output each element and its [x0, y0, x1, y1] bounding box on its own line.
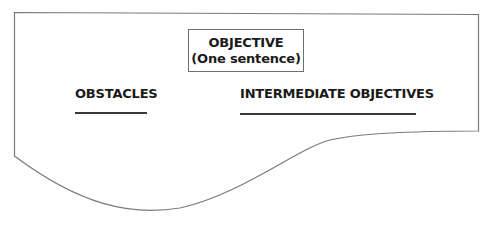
objective-subtitle: (One sentence) — [191, 51, 300, 67]
intermediate-objectives-underline — [240, 113, 416, 115]
objective-box: OBJECTIVE (One sentence) — [188, 29, 304, 72]
objective-title: OBJECTIVE — [208, 35, 283, 51]
obstacles-heading: OBSTACLES — [75, 86, 158, 101]
intermediate-objectives-heading: INTERMEDIATE OBJECTIVES — [240, 86, 434, 101]
obstacles-underline — [75, 112, 147, 114]
